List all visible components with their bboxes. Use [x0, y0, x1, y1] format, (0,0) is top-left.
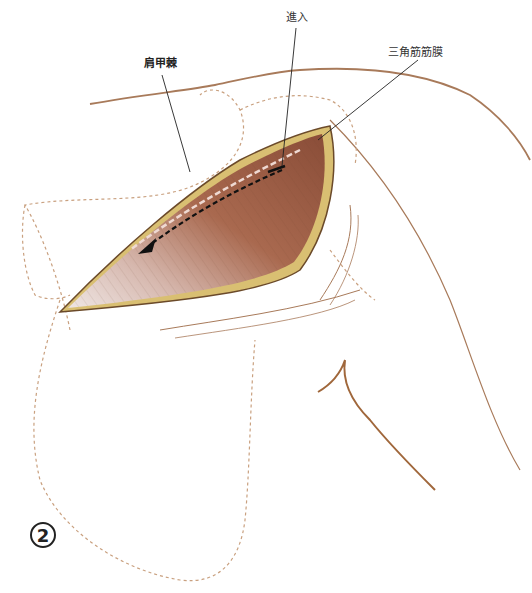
leader-deltoid-fascia: [318, 60, 418, 140]
illustration-drawing: [0, 0, 532, 593]
humerus-outline: [34, 300, 255, 581]
figure-number: 2: [37, 525, 50, 546]
scapula-lower-outline: [22, 205, 70, 299]
label-deltoid-fascia: 三角筋筋膜: [388, 47, 443, 58]
label-approach: 進入: [286, 12, 308, 23]
figure-number-badge: 2: [30, 522, 56, 548]
arm-contour-line: [330, 120, 520, 470]
surgical-illustration: 肩甲棘 進入 三角筋筋膜 2: [0, 0, 532, 593]
label-scapular-spine: 肩甲棘: [144, 58, 177, 69]
axillary-crease: [318, 360, 435, 490]
